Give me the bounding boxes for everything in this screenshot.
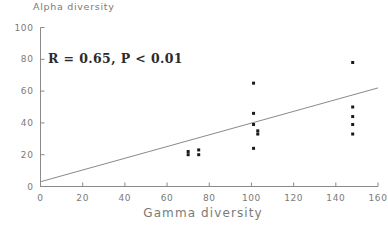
- x-axis-title: Gamma diversity: [143, 206, 262, 220]
- data-point: [252, 82, 255, 85]
- data-point: [351, 123, 354, 126]
- data-point: [351, 106, 354, 109]
- x-tick-label: 140: [326, 193, 345, 203]
- y-tick-label: 0: [0, 182, 34, 192]
- x-tick-label: 0: [37, 193, 43, 203]
- x-tick-label: 100: [242, 193, 261, 203]
- x-tick-label: 80: [203, 193, 216, 203]
- statistics-annotation: R = 0.65, P < 0.01: [48, 51, 183, 66]
- y-tick-label: 40: [0, 118, 34, 128]
- data-point: [252, 123, 255, 126]
- x-tick-label: 40: [119, 193, 132, 203]
- data-points-group: [187, 61, 355, 156]
- data-point: [351, 115, 354, 118]
- y-tick-label: 80: [0, 54, 34, 64]
- scatter-plot-figure: Alpha diversity Gamma diversity R = 0.65…: [0, 0, 388, 228]
- y-tick-label: 100: [0, 23, 34, 33]
- y-tick-label: 60: [0, 86, 34, 96]
- y-axis-title: Alpha diversity: [33, 1, 115, 12]
- y-tick-label: 20: [0, 150, 34, 160]
- x-tick-label: 20: [76, 193, 89, 203]
- data-point: [252, 147, 255, 150]
- data-point: [187, 153, 190, 156]
- regression-line: [41, 88, 379, 182]
- data-point: [256, 129, 259, 132]
- x-tick-label: 60: [161, 193, 174, 203]
- data-point: [351, 61, 354, 64]
- x-tick-label: 160: [369, 193, 388, 203]
- x-tick-label: 120: [284, 193, 303, 203]
- data-point: [197, 153, 200, 156]
- data-point: [351, 133, 354, 136]
- data-point: [197, 148, 200, 151]
- data-point: [256, 133, 259, 136]
- data-point: [252, 112, 255, 115]
- data-point: [187, 150, 190, 153]
- trend-line: [41, 88, 379, 182]
